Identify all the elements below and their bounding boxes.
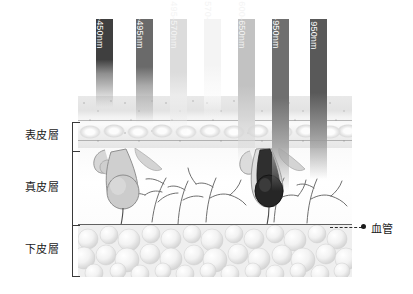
bracket-tick-dermis-hypodermis bbox=[73, 225, 80, 226]
band-570-600-label: 570-600nm bbox=[203, 1, 213, 48]
band-450-495: 450-495nm bbox=[136, 19, 153, 123]
skin-light-penetration-diagram: 380-450nm450-495nm495-570nm570-600nm600-… bbox=[0, 0, 413, 294]
bracket-tick-bottom bbox=[73, 276, 80, 277]
band-450-495-label: 450-495nm bbox=[135, 1, 145, 48]
band-over-950: over 950nm bbox=[310, 19, 327, 179]
blood-vessel-label: 血管 bbox=[371, 220, 393, 236]
band-495-570: 495-570nm bbox=[170, 19, 187, 135]
bracket-tick-epidermis-dermis bbox=[73, 151, 80, 152]
band-650-950-label: 650-950nm bbox=[271, 1, 281, 48]
layer-depth-bracket bbox=[72, 122, 80, 277]
bracket-tick-top bbox=[73, 122, 80, 123]
layer-label-hypodermis: 下皮層 bbox=[14, 240, 70, 256]
band-650-950: 650-950nm bbox=[272, 19, 289, 191]
blood-vessel-leader-line bbox=[330, 227, 362, 228]
band-570-600: 570-600nm bbox=[204, 19, 221, 119]
hypodermis-layer bbox=[78, 225, 352, 277]
band-600-650: 600-650nm bbox=[238, 19, 255, 163]
fat-globules bbox=[78, 225, 352, 277]
band-600-650-label: 600-650nm bbox=[237, 1, 247, 48]
layer-label-dermis: 真皮層 bbox=[14, 178, 70, 194]
band-380-450: 380-450nm bbox=[96, 19, 113, 107]
band-495-570-label: 495-570nm bbox=[169, 1, 179, 48]
band-over-950-label: over 950nm bbox=[309, 0, 319, 50]
blood-vessel-dot-marker bbox=[361, 224, 366, 229]
band-380-450-label: 380-450nm bbox=[95, 1, 105, 48]
layer-label-epidermis: 表皮層 bbox=[14, 126, 70, 142]
